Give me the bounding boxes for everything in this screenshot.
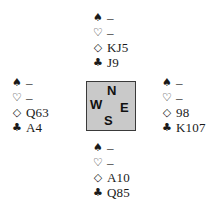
west-hand: ♠ – ♡ – ◇ Q63 ♣ A4 xyxy=(12,75,49,135)
west-hearts-cards: – xyxy=(26,90,33,105)
north-spades-cards: – xyxy=(107,10,114,25)
spade-icon: ♠ xyxy=(12,75,22,90)
east-hand: ♠ – ♡ – ◇ 98 ♣ K107 xyxy=(162,75,206,135)
heart-icon: ♡ xyxy=(93,155,103,170)
east-diamonds-cards: 98 xyxy=(176,105,189,120)
heart-icon: ♡ xyxy=(162,90,172,105)
west-hearts-row: ♡ – xyxy=(12,90,49,105)
south-clubs-row: ♣ Q85 xyxy=(93,185,130,200)
diamond-icon: ◇ xyxy=(93,170,103,185)
south-spades-row: ♠ – xyxy=(93,140,130,155)
compass-north-label: N xyxy=(107,84,116,97)
spade-icon: ♠ xyxy=(93,10,103,25)
compass-box: N W E S xyxy=(86,81,136,131)
east-spades-cards: – xyxy=(176,75,183,90)
compass-south-label: S xyxy=(104,114,113,127)
west-clubs-cards: A4 xyxy=(26,120,42,135)
east-diamonds-row: ◇ 98 xyxy=(162,105,206,120)
east-hearts-cards: – xyxy=(176,90,183,105)
north-diamonds-row: ◇ KJ5 xyxy=(93,40,129,55)
club-icon: ♣ xyxy=(12,120,22,135)
spade-icon: ♠ xyxy=(162,75,172,90)
club-icon: ♣ xyxy=(93,185,103,200)
west-clubs-row: ♣ A4 xyxy=(12,120,49,135)
diamond-icon: ◇ xyxy=(162,105,172,120)
diamond-icon: ◇ xyxy=(12,105,22,120)
spade-icon: ♠ xyxy=(93,140,103,155)
club-icon: ♣ xyxy=(93,55,103,70)
compass-west-label: W xyxy=(90,98,102,111)
heart-icon: ♡ xyxy=(12,90,22,105)
north-clubs-row: ♣ J9 xyxy=(93,55,129,70)
club-icon: ♣ xyxy=(162,120,172,135)
west-diamonds-row: ◇ Q63 xyxy=(12,105,49,120)
north-hearts-row: ♡ – xyxy=(93,25,129,40)
east-clubs-row: ♣ K107 xyxy=(162,120,206,135)
east-hearts-row: ♡ – xyxy=(162,90,206,105)
west-diamonds-cards: Q63 xyxy=(26,105,49,120)
north-hand: ♠ – ♡ – ◇ KJ5 ♣ J9 xyxy=(93,10,129,70)
south-hand: ♠ – ♡ – ◇ A10 ♣ Q85 xyxy=(93,140,130,200)
south-diamonds-row: ◇ A10 xyxy=(93,170,130,185)
north-clubs-cards: J9 xyxy=(107,55,119,70)
compass-east-label: E xyxy=(120,101,129,114)
east-clubs-cards: K107 xyxy=(176,120,206,135)
east-spades-row: ♠ – xyxy=(162,75,206,90)
south-hearts-row: ♡ – xyxy=(93,155,130,170)
west-spades-cards: – xyxy=(26,75,33,90)
south-diamonds-cards: A10 xyxy=(107,170,130,185)
west-spades-row: ♠ – xyxy=(12,75,49,90)
south-clubs-cards: Q85 xyxy=(107,185,130,200)
diamond-icon: ◇ xyxy=(93,40,103,55)
north-spades-row: ♠ – xyxy=(93,10,129,25)
north-hearts-cards: – xyxy=(107,25,114,40)
north-diamonds-cards: KJ5 xyxy=(107,40,129,55)
heart-icon: ♡ xyxy=(93,25,103,40)
south-spades-cards: – xyxy=(107,140,114,155)
south-hearts-cards: – xyxy=(107,155,114,170)
